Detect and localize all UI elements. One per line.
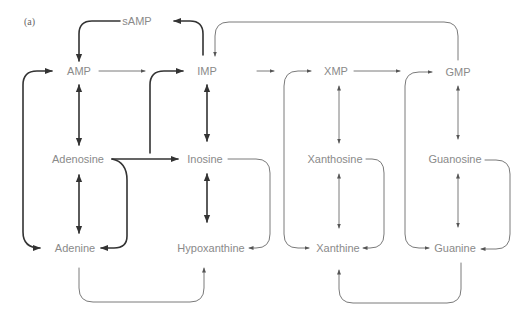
edge-samp-to-amp xyxy=(79,21,120,61)
node-xmp: XMP xyxy=(324,66,348,77)
node-hypoxanthine: Hypoxanthine xyxy=(177,243,244,254)
panel-label: (a) xyxy=(24,16,35,27)
edge-gmp-to-imp xyxy=(215,22,458,60)
node-guanosine: Guanosine xyxy=(428,154,481,165)
edge-xanthosine-to-xanthine-loop xyxy=(363,159,384,248)
node-amp: AMP xyxy=(67,66,91,77)
edge-layer xyxy=(0,0,532,330)
node-adenosine: Adenosine xyxy=(52,154,104,165)
node-guanine: Guanine xyxy=(434,243,476,254)
edge-adenine-to-amp xyxy=(23,71,52,248)
edge-adenine-to-hypoxanthine xyxy=(79,268,204,302)
edge-inosine-to-hypoxanthine-loop xyxy=(228,159,270,248)
edge-hypoxanthine-to-imp xyxy=(150,71,183,153)
edge-guanine-to-xanthine xyxy=(339,263,461,303)
node-xanthosine: Xanthosine xyxy=(307,154,362,165)
node-samp: sAMP xyxy=(122,16,151,27)
node-inosine: Inosine xyxy=(187,154,222,165)
node-xanthine: Xanthine xyxy=(316,243,359,254)
node-gmp: GMP xyxy=(445,67,470,78)
node-imp: IMP xyxy=(197,66,217,77)
edge-adenosine-to-adenine-loop xyxy=(101,159,127,248)
edge-imp-to-samp xyxy=(174,21,203,55)
node-adenine: Adenine xyxy=(55,243,95,254)
edge-guanosine-to-guanine-loop xyxy=(481,160,510,249)
purine-salvage-diagram: (a) sAMP AMP IMP XMP GMP Adenosine Inosi… xyxy=(0,0,532,330)
